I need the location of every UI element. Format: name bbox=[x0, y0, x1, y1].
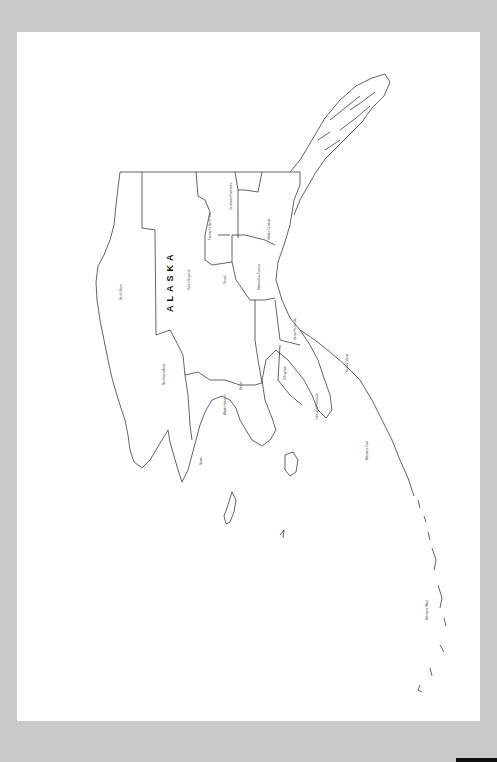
label-aleutians-east: Aleutians East bbox=[365, 441, 369, 460]
label-northwest-arctic: Northwest Arctic bbox=[162, 363, 166, 385]
aleutian-chain bbox=[418, 500, 446, 692]
label-nome: Nome bbox=[199, 457, 203, 465]
label-kenai: Kenai Peninsula bbox=[293, 318, 297, 340]
corner-bar bbox=[456, 758, 497, 762]
label-north-slope: North Slope bbox=[119, 284, 123, 300]
small-island bbox=[280, 530, 284, 538]
label-matanuska-susitna: Matanuska-Susitna bbox=[257, 264, 261, 290]
nunivak-island bbox=[224, 492, 236, 524]
map-title: ALASKA bbox=[165, 251, 175, 313]
label-denali: Denali bbox=[223, 275, 227, 284]
label-kodiak: Kodiak Island bbox=[345, 354, 349, 372]
map-page: ALASKA North Slope Northwest Arctic Yuko… bbox=[17, 32, 480, 721]
kodiak-island bbox=[285, 452, 298, 476]
label-southeast-fairbanks: Southeast Fairbanks bbox=[229, 182, 233, 210]
label-bethel: Bethel bbox=[239, 381, 243, 390]
label-valdez-cordova: Valdez-Cordova bbox=[267, 218, 271, 240]
label-dillingham: Dillingham bbox=[283, 365, 287, 380]
label-yukon-koyukuk: Yukon-Koyukuk bbox=[187, 269, 191, 290]
southeast-panhandle bbox=[290, 74, 390, 215]
label-aleutians-west: Aleutians West bbox=[425, 600, 429, 620]
alaska-map: ALASKA North Slope Northwest Arctic Yuko… bbox=[17, 32, 480, 721]
label-fairbanks: Fairbanks North Star bbox=[208, 212, 212, 240]
label-wade-hampton: Wade Hampton bbox=[223, 394, 227, 415]
label-lake-peninsula: Lake and Peninsula bbox=[315, 393, 319, 420]
panhandle-islands bbox=[318, 92, 375, 150]
